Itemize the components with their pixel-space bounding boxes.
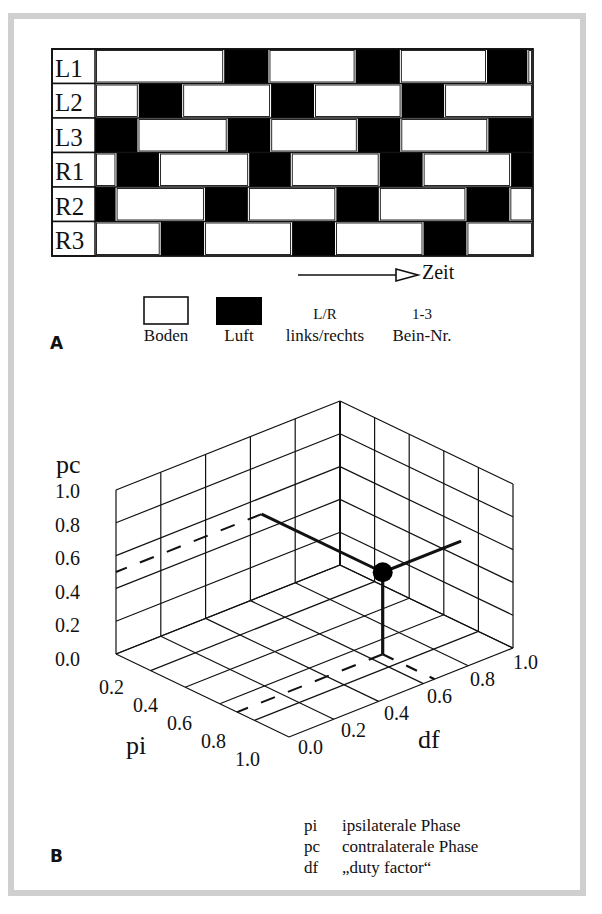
- glossary-item-pi: piipsilaterale Phase: [304, 815, 478, 836]
- axis-tick-label: 0.8: [470, 668, 495, 691]
- plot-3d-grid: [116, 401, 513, 737]
- axis-tick-label: 0.8: [201, 730, 226, 753]
- pc-axis-label: pc: [56, 450, 81, 480]
- axis-tick-label: 1.0: [235, 748, 260, 771]
- axis-tick-label: 1.0: [513, 651, 538, 674]
- axis-tick-label: 0.8: [55, 514, 80, 537]
- axis-tick-label: 0.4: [55, 581, 80, 604]
- glossary-item-df: df„duty factor“: [304, 857, 478, 878]
- axis-tick-label: 0.0: [55, 648, 80, 671]
- axis-tick-label: 0.4: [133, 694, 158, 717]
- glossary-item-pc: pccontralaterale Phase: [304, 836, 478, 857]
- pi-axis-label: pi: [126, 731, 146, 761]
- axis-tick-label: 0.4: [384, 702, 409, 725]
- axis-tick-label: 0.2: [341, 719, 366, 742]
- panel-b-3d-plot: [0, 0, 602, 914]
- axis-tick-label: 0.6: [427, 685, 452, 708]
- axis-tick-label: 0.2: [99, 676, 124, 699]
- axis-tick-label: 0.0: [298, 736, 323, 759]
- axis-tick-label: 0.6: [167, 712, 192, 735]
- panel-letter-b: B: [50, 846, 63, 866]
- axis-tick-label: 1.0: [55, 480, 80, 503]
- glossary: piipsilaterale Phase pccontralaterale Ph…: [304, 815, 478, 878]
- data-point-marker: [373, 562, 393, 582]
- axis-tick-label: 0.2: [55, 614, 80, 637]
- axis-tick-label: 0.6: [55, 547, 80, 570]
- df-axis-label: df: [418, 725, 440, 755]
